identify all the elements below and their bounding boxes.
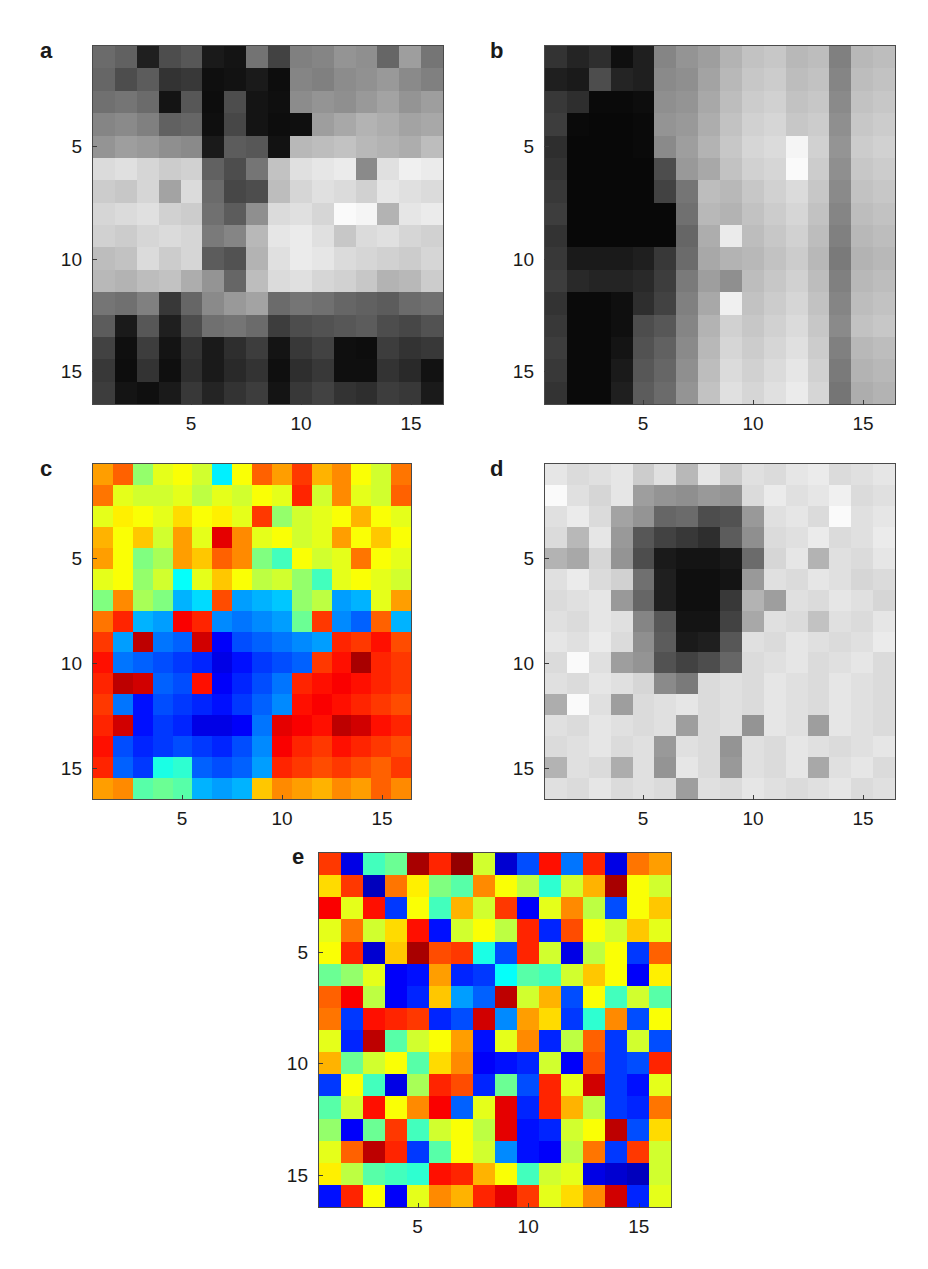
heatmap-cell: [676, 715, 698, 736]
heatmap-cell: [429, 1141, 451, 1163]
heatmap-cell: [829, 203, 851, 225]
heatmap-cell: [720, 590, 742, 611]
heatmap-cell: [351, 736, 371, 757]
heatmap-cell: [173, 548, 193, 569]
heatmap-cell: [605, 875, 627, 897]
x-tick-mark: [643, 795, 644, 800]
heatmap-cell: [698, 203, 720, 225]
heatmap-cell: [153, 464, 173, 485]
heatmap-cell: [272, 715, 292, 736]
heatmap-cell: [451, 1074, 473, 1096]
heatmap-cell: [407, 1074, 429, 1096]
heatmap-cell: [786, 757, 808, 778]
y-tick-label: 10: [262, 1054, 308, 1073]
heatmap-cell: [611, 611, 633, 632]
heatmap-cell: [649, 1030, 671, 1052]
heatmap-cell: [290, 180, 312, 202]
y-tick-label: 5: [488, 549, 534, 568]
heatmap-cell: [391, 569, 411, 590]
heatmap-cell: [312, 91, 334, 113]
heatmap-cell: [312, 548, 332, 569]
heatmap-cell: [371, 652, 391, 673]
heatmap-cell: [649, 1074, 671, 1096]
heatmap-cell: [742, 91, 764, 113]
heatmap-cell: [611, 315, 633, 337]
heatmap-cell: [633, 158, 655, 180]
heatmap-cell: [539, 1185, 561, 1207]
heatmap-cell: [764, 527, 786, 548]
heatmap-cell: [385, 986, 407, 1008]
heatmap-cell: [115, 91, 137, 113]
heatmap-cell: [851, 673, 873, 694]
heatmap-cell: [292, 506, 312, 527]
heatmap-cell: [764, 590, 786, 611]
heatmap-cell: [252, 590, 272, 611]
heatmap-cell: [334, 337, 356, 359]
heatmap-cell: [627, 875, 649, 897]
heatmap-cell: [654, 203, 676, 225]
heatmap-cell: [567, 91, 589, 113]
heatmap-cell: [786, 778, 808, 799]
heatmap-cell: [334, 315, 356, 337]
heatmap-cell: [473, 1096, 495, 1118]
heatmap-cell: [341, 1185, 363, 1207]
x-tick-mark: [282, 795, 283, 800]
heatmap-cell: [385, 853, 407, 875]
heatmap-cell: [649, 897, 671, 919]
heatmap-cell: [764, 337, 786, 359]
heatmap-cell: [720, 736, 742, 757]
heatmap-cell: [829, 382, 851, 404]
heatmap-cell: [202, 270, 224, 292]
heatmap-cell: [676, 292, 698, 314]
heatmap-cell: [654, 158, 676, 180]
heatmap-cell: [312, 136, 334, 158]
heatmap-cell: [851, 359, 873, 381]
heatmap-cell: [224, 292, 246, 314]
heatmap-cell: [371, 694, 391, 715]
heatmap-cell: [212, 715, 232, 736]
heatmap-cell: [873, 247, 895, 269]
heatmap-cell: [93, 527, 113, 548]
heatmap-cell: [567, 506, 589, 527]
heatmap-cell: [363, 1096, 385, 1118]
heatmap-cell: [583, 1119, 605, 1141]
heatmap-cell: [633, 464, 655, 485]
heatmap-cell: [851, 652, 873, 673]
heatmap-cell: [786, 247, 808, 269]
heatmap-cell: [567, 203, 589, 225]
heatmap-cell: [93, 736, 113, 757]
heatmap-cell: [473, 919, 495, 941]
heatmap-cell: [232, 548, 252, 569]
heatmap-cell: [268, 46, 290, 68]
heatmap-cell: [611, 337, 633, 359]
heatmap-cell: [633, 632, 655, 653]
heatmap-cell: [429, 1185, 451, 1207]
heatmap-cell: [212, 632, 232, 653]
heatmap-cell: [399, 337, 421, 359]
heatmap-cell: [115, 203, 137, 225]
heatmap-cell: [676, 180, 698, 202]
heatmap-cell: [786, 136, 808, 158]
heatmap-cell: [341, 1096, 363, 1118]
heatmap-cell: [654, 247, 676, 269]
heatmap-cell: [356, 180, 378, 202]
heatmap-cell: [698, 46, 720, 68]
heatmap-cell: [137, 270, 159, 292]
heatmap-cell: [137, 247, 159, 269]
heatmap-cell: [351, 506, 371, 527]
heatmap-cell: [654, 225, 676, 247]
heatmap-cell: [173, 485, 193, 506]
heatmap-cell: [808, 158, 830, 180]
heatmap-cell: [589, 68, 611, 90]
heatmap-cell: [698, 652, 720, 673]
heatmap-cell: [676, 778, 698, 799]
heatmap-cell: [561, 1119, 583, 1141]
heatmap-cell: [851, 337, 873, 359]
heatmap-cell: [137, 203, 159, 225]
heatmap-cell: [654, 652, 676, 673]
heatmap-cell: [829, 68, 851, 90]
heatmap-cell: [873, 485, 895, 506]
heatmap-cell: [159, 46, 181, 68]
heatmap-cell: [829, 506, 851, 527]
heatmap-cell: [153, 778, 173, 799]
